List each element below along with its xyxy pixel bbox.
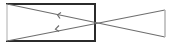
diagonal-line-down <box>7 4 165 37</box>
diagonal-line-up <box>7 10 165 41</box>
arrow-left-icon <box>56 26 60 32</box>
bowtie-diagram <box>0 0 175 46</box>
